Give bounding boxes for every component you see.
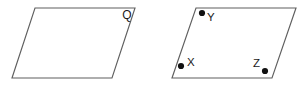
point-marker-y [199,10,205,16]
shape-label-q: Q [122,8,131,22]
point-label-x: X [187,56,195,68]
point-label-x-text: X [187,56,195,68]
point-marker-z [262,68,268,74]
figure-canvas: Q Y X Z [0,0,308,86]
shape-label-q-text: Q [122,8,131,22]
point-label-y-text: Y [207,11,215,23]
point-label-z-text: Z [253,57,260,69]
left-parallelogram [12,8,135,78]
point-marker-x [178,63,184,69]
point-label-y: Y [207,11,215,23]
point-label-z: Z [253,57,260,69]
geometry-figure: Q Y X Z [0,0,308,86]
